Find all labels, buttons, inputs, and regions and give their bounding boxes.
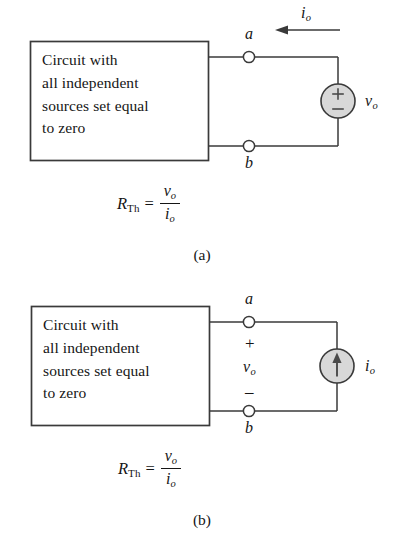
equation-b-fraction: vo io	[161, 447, 181, 490]
equation-a-denominator: io	[163, 205, 177, 225]
equation-a-fraction: vo io	[160, 182, 180, 225]
terminal-node-a-top	[243, 51, 254, 62]
polarity-minus-label: –	[245, 383, 254, 400]
block-text-line-3: sources set equal	[43, 360, 150, 383]
terminal-label-a-top: a	[245, 26, 253, 42]
block-text-line-4: to zero	[43, 382, 150, 405]
circuit-panel-b: Circuit with all independent sources set…	[0, 272, 405, 544]
equation-a-numerator-subscript: o	[171, 190, 176, 201]
equation-b-denominator-subscript: o	[170, 478, 175, 489]
circuit-panel-a: Circuit with all independent sources set…	[0, 0, 405, 272]
current-label-a: io	[301, 5, 311, 23]
circuit-block-text-b: Circuit with all independent sources set…	[43, 314, 150, 405]
current-source-label: io	[365, 358, 375, 376]
voltage-label-b-subscript: o	[250, 366, 255, 377]
terminal-label-a-bottom: b	[245, 155, 253, 171]
terminal-label-b-top: a	[245, 291, 253, 307]
equation-a-relation: =	[145, 194, 154, 214]
equation-b-denominator: io	[164, 470, 178, 490]
current-source-label-symbol: i	[365, 357, 369, 374]
equation-b-numerator-subscript: o	[172, 455, 177, 466]
equation-b-lhs-subscript: Th	[128, 467, 140, 479]
panel-caption-a: (a)	[172, 246, 232, 264]
equation-b-relation: =	[146, 459, 155, 479]
equation-a-lhs: RTh	[117, 194, 140, 214]
equation-b-fraction-bar	[161, 468, 181, 469]
terminal-label-b-bottom: b	[245, 420, 253, 436]
equation-a-numerator-symbol: v	[164, 182, 171, 199]
voltage-label-b: vo	[243, 359, 256, 377]
block-text-line-1: Circuit with	[43, 314, 150, 337]
equation-a-fraction-bar	[160, 203, 180, 204]
terminal-node-a-bottom	[243, 140, 254, 151]
block-text-line-4: to zero	[42, 117, 149, 140]
equation-a-lhs-symbol: R	[117, 194, 127, 213]
current-source-label-subscript: o	[370, 365, 375, 376]
equation-a-denominator-subscript: o	[169, 213, 174, 224]
current-arrow-head-a	[275, 25, 288, 34]
polarity-plus-label: +	[245, 335, 255, 352]
equation-b-numerator: vo	[163, 447, 179, 467]
current-label-a-symbol: i	[301, 4, 305, 21]
circuit-block-text-a: Circuit with all independent sources set…	[42, 49, 149, 140]
equation-rth-b: RTh = vo io	[118, 448, 181, 491]
voltage-source-label-subscript: o	[372, 100, 377, 111]
equation-a-lhs-subscript: Th	[127, 202, 139, 214]
voltage-source-label: vo	[365, 93, 378, 111]
block-text-line-2: all independent	[42, 72, 149, 95]
block-text-line-2: all independent	[43, 337, 150, 360]
terminal-node-b-top	[243, 316, 254, 327]
equation-b-lhs-symbol: R	[118, 459, 128, 478]
equation-b-numerator-symbol: v	[165, 447, 172, 464]
current-label-a-subscript: o	[306, 12, 311, 23]
panel-caption-b: (b)	[172, 511, 232, 529]
equation-a-numerator: vo	[162, 182, 178, 202]
terminal-node-b-bottom	[243, 405, 254, 416]
equation-rth-a: RTh = vo io	[117, 183, 180, 226]
circuit-b-schematic	[0, 272, 405, 544]
block-text-line-3: sources set equal	[42, 95, 149, 118]
circuit-figure: Circuit with all independent sources set…	[0, 0, 405, 544]
block-text-line-1: Circuit with	[42, 49, 149, 72]
equation-b-lhs: RTh	[118, 459, 141, 479]
